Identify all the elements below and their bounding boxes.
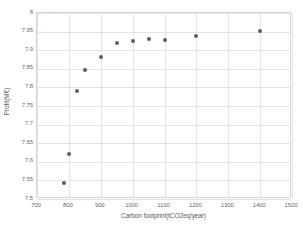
- x-axis-tick-labels: 700800900100011001200130014001500: [36, 201, 291, 211]
- data-point: [67, 152, 71, 156]
- scatter-chart: 7.57.557.67.657.77.757.87.857.97.958 700…: [0, 0, 303, 229]
- y-tick-label: 7.65: [3, 139, 33, 146]
- data-point: [131, 39, 135, 43]
- data-point: [99, 55, 103, 59]
- gridline-vertical: [228, 13, 229, 197]
- gridline-vertical: [260, 13, 261, 197]
- data-point: [258, 29, 262, 33]
- gridline-vertical: [101, 13, 102, 197]
- gridline-horizontal: [37, 13, 290, 14]
- y-tick-label: 7.95: [3, 27, 33, 34]
- data-point: [194, 34, 198, 38]
- data-point: [147, 37, 151, 41]
- gridline-horizontal: [37, 199, 290, 200]
- data-point: [163, 38, 167, 42]
- y-axis-title: Profit(M€): [3, 72, 10, 132]
- data-point: [83, 68, 87, 72]
- data-point: [115, 41, 119, 45]
- gridline-vertical: [292, 13, 293, 197]
- y-tick-label: 7.9: [3, 46, 33, 53]
- gridline-horizontal: [37, 180, 290, 181]
- gridline-horizontal: [37, 106, 290, 107]
- y-tick-label: 7.55: [3, 176, 33, 183]
- y-tick-label: 8: [3, 9, 33, 16]
- y-tick-label: 7.85: [3, 64, 33, 71]
- gridline-horizontal: [37, 69, 290, 70]
- gridline-vertical: [196, 13, 197, 197]
- gridline-horizontal: [37, 87, 290, 88]
- x-axis-title: Carbon footprint(tCO2eq/year): [36, 212, 291, 219]
- data-point: [62, 181, 66, 185]
- y-tick-label: 7.6: [3, 157, 33, 164]
- plot-area: [36, 12, 291, 198]
- x-tick-label: 1500: [271, 201, 303, 209]
- gridline-vertical: [37, 13, 38, 197]
- gridline-horizontal: [37, 32, 290, 33]
- gridline-vertical: [69, 13, 70, 197]
- gridline-horizontal: [37, 162, 290, 163]
- gridline-horizontal: [37, 143, 290, 144]
- gridline-horizontal: [37, 125, 290, 126]
- gridline-horizontal: [37, 50, 290, 51]
- data-point: [75, 89, 79, 93]
